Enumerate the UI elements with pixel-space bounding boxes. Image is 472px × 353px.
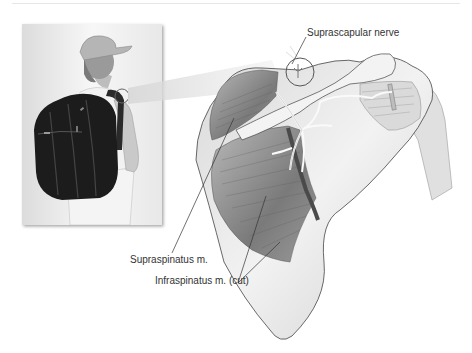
- inset-figure: [22, 24, 162, 225]
- label-supraspinatus: Supraspinatus m.: [130, 255, 208, 265]
- anatomy-illustration: [0, 0, 472, 353]
- leader-suprascapular-nerve: [292, 37, 306, 64]
- scapula-illustration: [196, 46, 452, 339]
- label-infraspinatus: Infraspinatus m. (cut): [155, 276, 249, 286]
- label-suprascapular-nerve: Suprascapular nerve: [307, 28, 399, 38]
